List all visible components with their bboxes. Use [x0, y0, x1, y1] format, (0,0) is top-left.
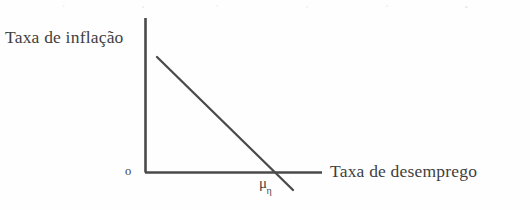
- eta-subscript: η: [267, 185, 272, 196]
- x-axis-label: Taxa de desemprego: [330, 163, 477, 181]
- phillips-curve-line: [157, 57, 293, 190]
- mu-symbol: μ: [259, 175, 267, 191]
- y-axis-label: Taxa de inflação: [5, 29, 124, 47]
- origin-label: o: [125, 165, 131, 178]
- phillips-curve-figure: Taxa de inflação Taxa de desemprego o μη: [0, 0, 530, 210]
- natural-unemployment-rate-label: μη: [259, 176, 272, 194]
